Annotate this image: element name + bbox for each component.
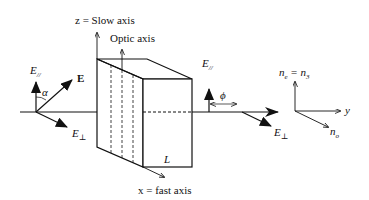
output-e-perp-arrow-icon (242, 112, 271, 126)
output-e-parallel-label: E// (201, 57, 214, 72)
no-label: no (330, 125, 340, 140)
phi-label: ϕ (220, 89, 226, 101)
input-e-parallel-label: E// (29, 64, 42, 79)
output-field-vectors (209, 89, 271, 126)
thickness-label: L (163, 153, 170, 165)
ne-n3-label: ne = n3 (279, 66, 310, 81)
output-e-perp-label: E⊥ (273, 126, 288, 141)
y-axis-label: y (344, 104, 350, 116)
optic-axis-label: Optic axis (110, 32, 155, 44)
waveplate-diagram: z = Slow axis Optic axis L x = fast axis… (0, 0, 369, 200)
input-e-perp-arrow-icon (36, 112, 67, 127)
input-e-perp-label: E⊥ (71, 127, 86, 142)
index-axes (295, 82, 340, 127)
fast-axis-arrow-icon (143, 167, 164, 177)
no-axis-arrow-icon (295, 111, 328, 127)
fast-axis-label: x = fast axis (138, 184, 192, 196)
slow-axis-label: z = Slow axis (75, 14, 135, 26)
input-e-label: E (77, 72, 84, 84)
alpha-label: α (42, 86, 48, 98)
